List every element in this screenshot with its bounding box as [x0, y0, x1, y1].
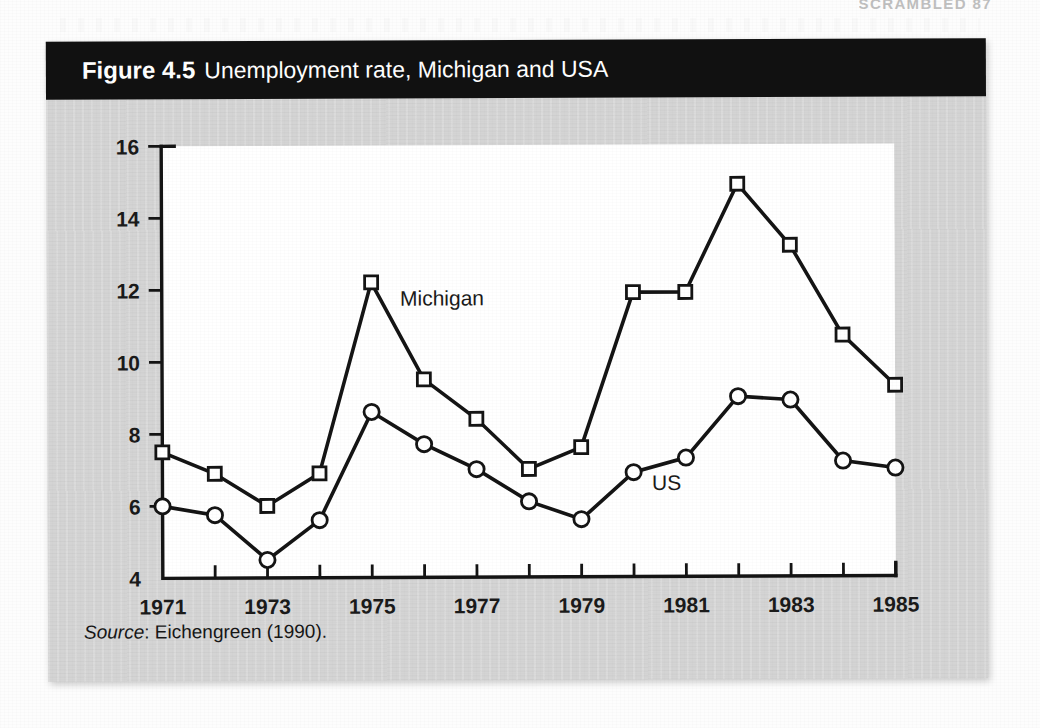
data-point-marker — [260, 552, 275, 567]
data-point-marker — [574, 512, 589, 527]
series-line-michigan — [161, 183, 895, 506]
data-point-marker — [312, 513, 327, 528]
running-head: SCRAMBLED 87 — [859, 0, 992, 9]
data-point-marker — [313, 467, 326, 480]
x-axis-tick-labels: 19711973197519771979198119831985 — [140, 592, 920, 618]
data-point-marker — [155, 499, 170, 514]
series-label-michigan: Michigan — [400, 286, 484, 309]
data-point-marker — [156, 446, 169, 459]
data-point-marker — [836, 328, 849, 341]
y-tick-label: 10 — [117, 351, 140, 374]
data-point-marker — [470, 412, 483, 425]
data-point-marker — [208, 467, 221, 480]
series-line-us — [162, 396, 896, 561]
data-point-marker — [521, 494, 536, 509]
y-tick-label: 12 — [116, 279, 139, 302]
chart-series — [154, 177, 904, 568]
data-point-marker — [575, 441, 588, 454]
unemployment-line-chart: 46810121416 1971197319751977197919811983… — [46, 96, 988, 630]
figure-container: Figure 4.5Unemployment rate, Michigan an… — [46, 38, 988, 682]
figure-source: Source: Eichengreen (1990). — [84, 621, 327, 644]
data-point-marker — [730, 389, 745, 404]
x-tick-label: 1983 — [768, 593, 815, 616]
data-point-marker — [888, 460, 903, 475]
y-tick-label: 8 — [129, 423, 141, 446]
figure-source-label: Source — [84, 621, 144, 642]
data-point-marker — [678, 450, 693, 465]
data-point-marker — [783, 238, 796, 251]
x-tick-label: 1971 — [140, 595, 187, 618]
series-label-us: US — [652, 471, 681, 494]
x-tick-label: 1977 — [454, 594, 501, 617]
y-tick-label: 16 — [116, 135, 139, 158]
data-point-marker — [731, 177, 744, 190]
y-tick-label: 6 — [129, 495, 141, 518]
data-point-marker — [889, 378, 902, 391]
figure-caption-text: Figure 4.5Unemployment rate, Michigan an… — [82, 55, 608, 85]
data-point-marker — [522, 462, 535, 475]
y-tick-label: 4 — [129, 567, 141, 590]
figure-title: Unemployment rate, Michigan and USA — [204, 56, 608, 84]
data-point-marker — [261, 499, 274, 512]
data-point-marker — [679, 285, 692, 298]
x-tick-label: 1985 — [873, 592, 920, 615]
y-tick-label: 14 — [116, 207, 140, 230]
data-point-marker — [364, 404, 379, 419]
data-point-marker — [626, 286, 639, 299]
data-point-marker — [365, 276, 378, 289]
data-point-marker — [469, 462, 484, 477]
x-tick-label: 1979 — [558, 594, 605, 617]
data-point-marker — [626, 465, 641, 480]
data-point-marker — [207, 508, 222, 523]
x-tick-label: 1973 — [244, 595, 291, 618]
data-point-marker — [783, 392, 798, 407]
y-axis-tick-labels: 46810121416 — [116, 135, 141, 590]
figure-number: Figure 4.5 — [82, 56, 195, 83]
x-tick-label: 1975 — [349, 594, 396, 617]
x-tick-label: 1981 — [663, 593, 710, 616]
figure-caption-bar: Figure 4.5Unemployment rate, Michigan an… — [46, 38, 986, 100]
figure-source-text: : Eichengreen (1990). — [144, 621, 327, 643]
data-point-marker — [416, 437, 431, 452]
data-point-marker — [835, 453, 850, 468]
data-point-marker — [417, 373, 430, 386]
page-header-smudge — [60, 18, 980, 32]
